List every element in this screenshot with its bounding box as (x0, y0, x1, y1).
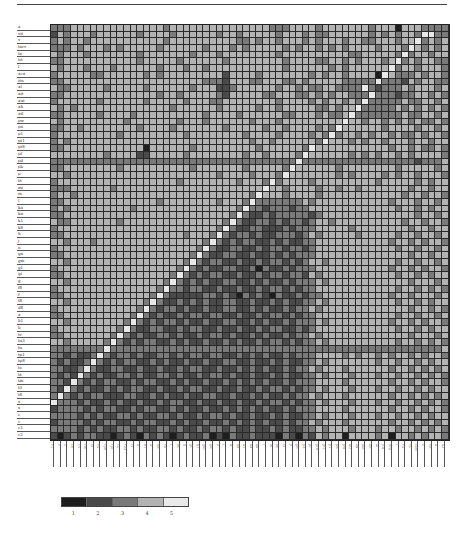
heatmap-cell (256, 373, 263, 380)
heatmap-cell (349, 92, 356, 99)
heatmap-cell (64, 306, 71, 313)
heatmap-cell (382, 366, 389, 373)
heatmap-cell (223, 400, 230, 407)
heatmap-cell (51, 179, 58, 186)
heatmap-cell (429, 152, 436, 159)
heatmap-cell (177, 406, 184, 413)
heatmap-cell (343, 426, 350, 433)
heatmap-cell (210, 45, 217, 52)
heatmap-cell (422, 79, 429, 86)
heatmap-cell (117, 25, 124, 32)
heatmap-cell (283, 152, 290, 159)
heatmap-cell (323, 306, 330, 313)
heatmap-cell (164, 179, 171, 186)
heatmap-cell (197, 366, 204, 373)
heatmap-cell (382, 393, 389, 400)
heatmap-cell (210, 313, 217, 320)
heatmap-cell (97, 246, 104, 253)
heatmap-cell (58, 152, 65, 159)
heatmap-cell (323, 426, 330, 433)
heatmap-cell (442, 406, 449, 413)
heatmap-cell (84, 359, 91, 366)
heatmap-cell (316, 119, 323, 126)
heatmap-cell (349, 272, 356, 279)
heatmap-cell (243, 179, 250, 186)
heatmap-cell (131, 353, 138, 360)
heatmap-cell (303, 319, 310, 326)
column-label: tp8 (103, 441, 110, 467)
heatmap-cell (296, 139, 303, 146)
heatmap-cell (283, 139, 290, 146)
heatmap-cell (283, 179, 290, 186)
heatmap-cell (396, 246, 403, 253)
heatmap-cell (237, 125, 244, 132)
heatmap-cell (131, 219, 138, 226)
heatmap-cell (117, 186, 124, 193)
column-label: v (421, 441, 428, 467)
heatmap-cell (210, 159, 217, 166)
heatmap-cell (97, 379, 104, 386)
heatmap-cell (270, 192, 277, 199)
heatmap-cell (442, 206, 449, 213)
heatmap-cell (190, 152, 197, 159)
heatmap-cell (276, 252, 283, 259)
heatmap-cell (223, 386, 230, 393)
heatmap-cell (64, 293, 71, 300)
heatmap-cell (131, 420, 138, 427)
heatmap-cell (429, 72, 436, 79)
heatmap-cell (58, 165, 65, 172)
heatmap-cell (316, 413, 323, 420)
heatmap-cell (64, 366, 71, 373)
heatmap-cell (131, 373, 138, 380)
heatmap-cell (197, 413, 204, 420)
heatmap-cell (256, 299, 263, 306)
heatmap-cell (217, 313, 224, 320)
heatmap-cell (296, 192, 303, 199)
heatmap-cell (349, 393, 356, 400)
heatmap-cell (250, 266, 257, 273)
heatmap-cell (356, 346, 363, 353)
heatmap-cell (270, 25, 277, 32)
heatmap-cell (369, 326, 376, 333)
heatmap-cell (190, 58, 197, 65)
heatmap-cell (270, 172, 277, 179)
heatmap-cell (190, 85, 197, 92)
heatmap-cell (283, 192, 290, 199)
heatmap-cell (97, 433, 104, 440)
heatmap-cell (84, 393, 91, 400)
heatmap-cell (144, 119, 151, 126)
heatmap-cell (376, 386, 383, 393)
heatmap-cell (382, 72, 389, 79)
heatmap-cell (217, 426, 224, 433)
heatmap-cell (51, 306, 58, 313)
heatmap-cell (349, 306, 356, 313)
heatmap-cell (210, 226, 217, 233)
heatmap-cell (164, 353, 171, 360)
heatmap-cell (442, 420, 449, 427)
heatmap-cell (409, 206, 416, 213)
heatmap-cell (402, 172, 409, 179)
heatmap-cell (97, 393, 104, 400)
heatmap-cell (197, 192, 204, 199)
heatmap-cell (283, 279, 290, 286)
heatmap-cell (349, 313, 356, 320)
heatmap-cell (362, 152, 369, 159)
heatmap-cell (51, 293, 58, 300)
heatmap-cell (91, 319, 98, 326)
heatmap-cell (415, 105, 422, 112)
heatmap-cell (150, 413, 157, 420)
heatmap-cell (210, 119, 217, 126)
heatmap-cell (64, 132, 71, 139)
heatmap-cell (197, 58, 204, 65)
heatmap-cell (184, 232, 191, 239)
heatmap-cell (309, 346, 316, 353)
column-label-text: pw (342, 444, 346, 449)
heatmap-cell (237, 152, 244, 159)
heatmap-cell (203, 246, 210, 253)
heatmap-cell (124, 199, 131, 206)
heatmap-cell (389, 232, 396, 239)
heatmap-cell (316, 192, 323, 199)
heatmap-cell (184, 433, 191, 440)
heatmap-cell (124, 333, 131, 340)
heatmap-cell (111, 186, 118, 193)
